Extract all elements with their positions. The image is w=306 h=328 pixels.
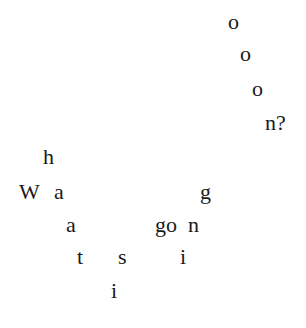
glyph-o-2: o (240, 43, 251, 65)
glyph-o-3: o (252, 78, 263, 100)
glyph-t: t (77, 246, 83, 268)
glyph-i-2: i (111, 280, 117, 302)
glyph-s: s (118, 246, 127, 268)
glyph-go: go (155, 214, 177, 236)
glyph-g: g (200, 181, 211, 203)
glyph-a-1: a (54, 181, 64, 203)
glyph-i-1: i (180, 246, 186, 268)
glyph-W: W (19, 181, 40, 203)
glyph-o-1: o (228, 11, 239, 33)
glyph-a-2: a (66, 214, 76, 236)
scattered-text-artwork: o o o n? h W a g a go n t s i i (0, 0, 306, 328)
glyph-n-question: n? (265, 112, 286, 134)
glyph-n: n (188, 214, 199, 236)
glyph-h: h (43, 146, 54, 168)
